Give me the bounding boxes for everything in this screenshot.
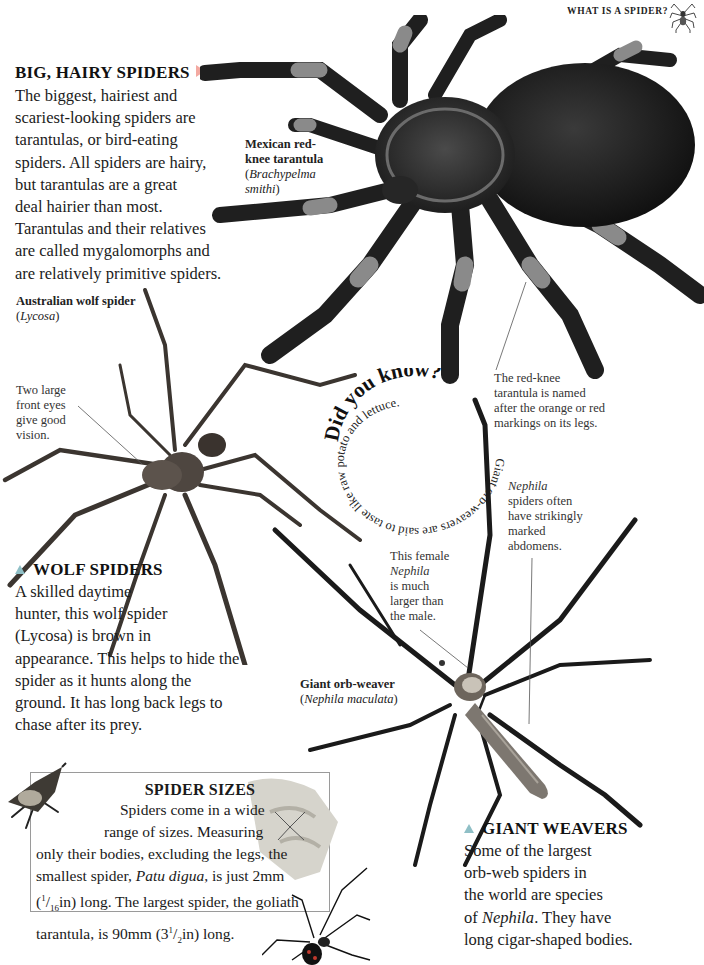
- text-span: , is just 2mm: [204, 867, 284, 884]
- tarantula-latin-text: Brachypelma: [249, 167, 316, 181]
- text-span: tarantula, is 90mm (3: [36, 925, 169, 942]
- text-line: (1/16in) long. The largest spider, the g…: [36, 887, 330, 919]
- text-line: chase after its prey.: [0, 714, 270, 736]
- text-line: the world are species: [464, 884, 704, 906]
- abdomen-leader-line: [526, 556, 536, 726]
- note-line: marked: [508, 524, 608, 539]
- text-line: A skilled daytime: [0, 581, 270, 603]
- text-span: . They have: [534, 908, 611, 927]
- tarantula-label: Mexican red- knee tarantula (Brachypelma…: [245, 137, 355, 197]
- spider-sizes-text: Spiders come in a wide range of sizes. M…: [40, 799, 330, 952]
- pointer-up-icon: [464, 824, 474, 833]
- text-line: spider as it hunts along the: [0, 670, 270, 692]
- giant-weavers-body: Some of the largest orb-web spiders in t…: [464, 840, 704, 951]
- giant-weavers-heading-text: GIANT WEAVERS: [482, 819, 628, 838]
- wolf-spiders-heading-text: WOLF SPIDERS: [33, 560, 163, 579]
- note-line: The red-knee: [494, 371, 694, 386]
- text-span: in) long.: [182, 925, 235, 942]
- tarantula-label-line: knee tarantula: [245, 152, 323, 166]
- fraction-num: 1: [41, 893, 46, 903]
- tarantula-latin-text: smithi: [245, 182, 276, 196]
- wolf-spider-label: Australian wolf spider (Lycosa): [16, 294, 186, 324]
- tarantula-label-line: Mexican red-: [245, 137, 316, 151]
- text-line: of Nephila. They have: [464, 907, 704, 929]
- orb-weaver-label: Giant orb-weaver (Nephila maculata): [300, 677, 460, 707]
- note-line: Two large: [16, 383, 106, 398]
- text-line: long cigar-shaped bodies.: [464, 929, 704, 951]
- wolf-spiders-body: A skilled daytime hunter, this wolf spid…: [0, 581, 270, 736]
- female-nephila-note: This female Nephila is much larger than …: [390, 549, 470, 624]
- orb-weaver-latin: Nephila maculata: [304, 692, 393, 706]
- text-line: orb-web spiders in: [464, 862, 704, 884]
- text-line: hunter, this wolf spider: [0, 603, 270, 625]
- note-line: the male.: [390, 609, 470, 624]
- note-line: abdomens.: [508, 539, 608, 554]
- note-line-italic: Nephila: [390, 564, 430, 578]
- text-line: ground. It has long back legs to: [0, 692, 270, 714]
- tarantula-latin: (Brachypelma: [245, 167, 355, 182]
- text-line: range of sizes. Measuring: [40, 821, 330, 843]
- wolf-spiders-section: WOLF SPIDERS A skilled daytime hunter, t…: [0, 560, 270, 736]
- text-line: Spiders come in a wide: [40, 799, 330, 821]
- text-span: of: [464, 908, 482, 927]
- pointer-up-icon: [15, 565, 25, 574]
- big-hairy-heading-text: BIG, HAIRY SPIDERS: [15, 63, 190, 82]
- note-line: spiders often: [508, 494, 608, 509]
- wolf-spider-latin: Lycosa: [20, 309, 55, 323]
- wolf-spider-label-text: Australian wolf spider: [16, 294, 135, 308]
- text-line: only their bodies, excluding the legs, t…: [36, 843, 330, 865]
- text-line: tarantula, is 90mm (31/2in) long.: [36, 919, 330, 951]
- text-line: smallest spider, Patu digua, is just 2mm: [36, 865, 330, 887]
- female-leader-line: [418, 628, 472, 670]
- paren: ): [276, 182, 280, 196]
- text-span: in) long. The largest spider, the goliat…: [59, 893, 299, 910]
- spider-sizes-content: SPIDER SIZES Spiders come in a wide rang…: [40, 781, 330, 952]
- note-line: is much: [390, 579, 470, 594]
- giant-weavers-section: GIANT WEAVERS Some of the largest orb-we…: [464, 819, 704, 951]
- abdomen-note: Nephila spiders often have strikingly ma…: [508, 479, 608, 554]
- text-span: smallest spider,: [36, 867, 136, 884]
- tarantula-leader-line: [490, 280, 530, 372]
- fraction-den: 16: [50, 903, 59, 913]
- text-line: (Lycosa) is brown in: [0, 625, 270, 647]
- giant-weavers-heading: GIANT WEAVERS: [464, 819, 704, 839]
- note-line: larger than: [390, 594, 470, 609]
- text-line: Some of the largest: [464, 840, 704, 862]
- orb-weaver-label-text: Giant orb-weaver: [300, 677, 395, 691]
- wolf-spiders-heading: WOLF SPIDERS: [0, 560, 270, 580]
- note-line: have strikingly: [508, 509, 608, 524]
- patu-digua-name: Patu digua: [136, 867, 204, 884]
- eyes-leader-line: [76, 404, 146, 468]
- spider-sizes-heading: SPIDER SIZES: [40, 781, 330, 799]
- text-line: appearance. This helps to hide the: [0, 648, 270, 670]
- fraction-num: 1: [169, 925, 174, 935]
- nephila-name: Nephila: [482, 908, 534, 927]
- note-line: This female: [390, 549, 470, 564]
- note-line-italic: Nephila: [508, 479, 548, 493]
